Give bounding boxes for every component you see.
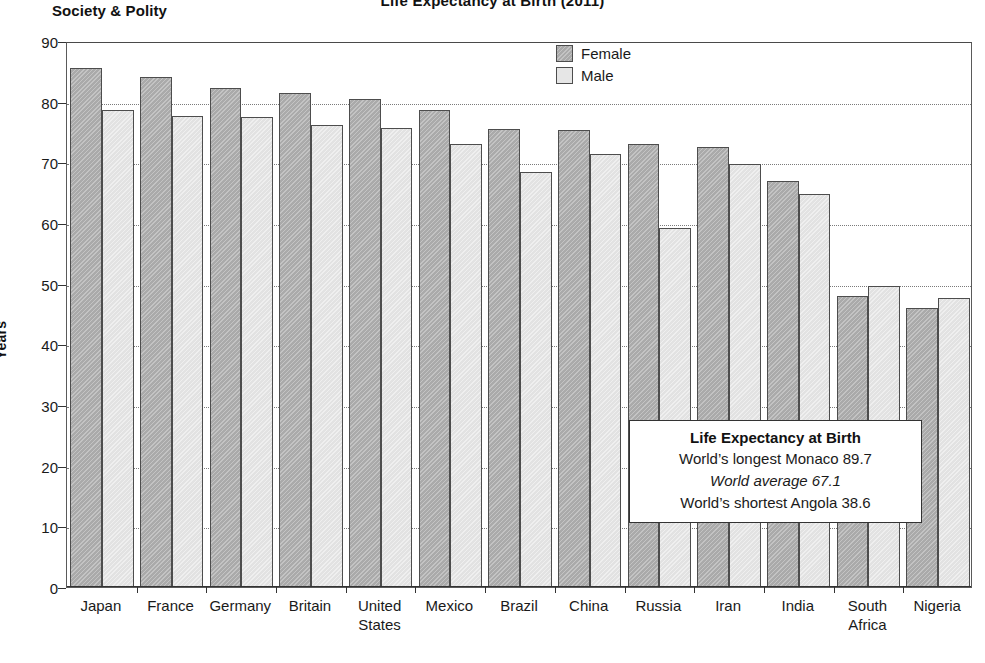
bar-female (70, 68, 102, 587)
x-axis-label: South Africa (848, 596, 887, 634)
y-tick-mark (58, 467, 66, 468)
x-axis-label: Iran (715, 596, 741, 615)
y-tick-label: 40 (28, 337, 58, 354)
bar-female (419, 110, 451, 587)
callout-longest: World’s longest Monaco 89.7 (638, 448, 913, 470)
bar-male (799, 194, 831, 587)
x-axis-labels: JapanFranceGermanyBritainUnited StatesMe… (66, 596, 972, 656)
category-tick (485, 587, 486, 593)
category-tick (415, 587, 416, 593)
x-axis-label: India (782, 596, 815, 615)
legend-item-female: Female (556, 44, 676, 62)
x-axis-label: United States (358, 596, 401, 634)
y-tick-label: 20 (28, 458, 58, 475)
bar-male (102, 110, 134, 587)
y-tick-mark (58, 224, 66, 225)
legend-item-male: Male (556, 66, 676, 84)
x-axis-label: Japan (80, 596, 121, 615)
y-tick-label: 60 (28, 216, 58, 233)
bar-male (590, 154, 622, 587)
callout-box: Life Expectancy at Birth World’s longest… (629, 420, 922, 523)
y-tick-mark (58, 285, 66, 286)
bar-female (279, 93, 311, 587)
y-tick-mark (58, 406, 66, 407)
section-label: Society & Polity (52, 2, 167, 19)
y-tick-label: 70 (28, 155, 58, 172)
category-tick (834, 587, 835, 593)
bar-female (210, 88, 242, 587)
y-tick-label: 50 (28, 276, 58, 293)
y-tick-mark (58, 103, 66, 104)
category-tick (555, 587, 556, 593)
chart-legend: Female Male (556, 44, 676, 88)
bar-male (311, 125, 343, 587)
category-tick (346, 587, 347, 593)
x-axis-label: Germany (209, 596, 271, 615)
x-axis-label: France (147, 596, 194, 615)
callout-shortest: World’s shortest Angola 38.6 (638, 492, 913, 514)
category-tick (137, 587, 138, 593)
legend-swatch-female-icon (556, 45, 573, 62)
category-tick (206, 587, 207, 593)
y-axis: Years 0102030405060708090 (0, 42, 58, 588)
y-tick-label: 10 (28, 519, 58, 536)
bar-male (241, 117, 273, 587)
bar-male (659, 228, 691, 587)
x-axis-label: Russia (635, 596, 681, 615)
legend-swatch-male-icon (556, 67, 573, 84)
y-tick-label: 30 (28, 398, 58, 415)
bar-male (172, 116, 204, 587)
y-tick-mark (58, 42, 66, 43)
bar-female (349, 99, 381, 587)
legend-label-male: Male (581, 67, 614, 84)
bar-male (381, 128, 413, 587)
x-axis-label: Brazil (500, 596, 538, 615)
callout-average: World average 67.1 (638, 470, 913, 492)
y-tick-mark (58, 588, 66, 589)
chart-page: Life Expectancy at Birth (2011) Society … (0, 0, 985, 663)
y-tick-mark (58, 163, 66, 164)
category-tick (276, 587, 277, 593)
bar-female (767, 181, 799, 587)
x-axis-label: Britain (289, 596, 332, 615)
x-axis-label: Nigeria (913, 596, 961, 615)
bar-male (938, 298, 970, 587)
y-tick-mark (58, 527, 66, 528)
bar-male (520, 172, 552, 587)
x-axis-label: Mexico (426, 596, 474, 615)
y-tick-label: 80 (28, 94, 58, 111)
category-tick (764, 587, 765, 593)
bar-female (140, 77, 172, 587)
legend-label-female: Female (581, 45, 631, 62)
x-axis-baseline (67, 586, 971, 587)
category-tick (903, 587, 904, 593)
bar-female (558, 130, 590, 587)
y-tick-label: 90 (28, 34, 58, 51)
y-tick-label: 0 (28, 580, 58, 597)
y-tick-mark (58, 345, 66, 346)
callout-title: Life Expectancy at Birth (638, 427, 913, 448)
y-axis-title: Years (0, 321, 9, 360)
bar-male (450, 144, 482, 587)
x-axis-label: China (569, 596, 608, 615)
bar-male (729, 164, 761, 587)
category-tick (694, 587, 695, 593)
category-tick (625, 587, 626, 593)
bar-female (488, 129, 520, 587)
